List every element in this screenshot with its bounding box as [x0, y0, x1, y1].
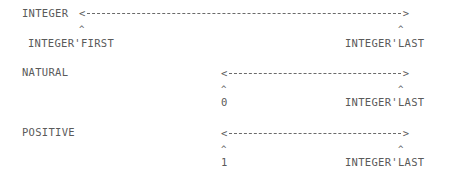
type-name: INTEGER: [22, 7, 68, 19]
upper-bound: INTEGER'LAST: [345, 156, 424, 168]
arrow-left-icon: <: [221, 67, 227, 79]
arrow-right-icon: >: [403, 127, 409, 139]
lower-bound: 1: [221, 156, 228, 168]
type-name: NATURAL: [22, 66, 68, 78]
upper-bound: INTEGER'LAST: [345, 37, 424, 49]
arrow-right-icon: >: [403, 7, 409, 19]
caret-icon: ^: [221, 144, 226, 154]
range-arrow: < >: [221, 67, 409, 79]
caret-icon: ^: [79, 24, 84, 34]
caret-icon: ^: [398, 24, 403, 34]
caret-icon: ^: [398, 84, 403, 94]
range-arrow: < >: [79, 7, 409, 19]
arrow-left-icon: <: [221, 127, 227, 139]
lower-bound: INTEGER'FIRST: [28, 37, 114, 49]
caret-icon: ^: [398, 144, 403, 154]
lower-bound: 0: [221, 96, 228, 108]
caret-icon: ^: [221, 84, 226, 94]
dashed-line: [87, 13, 401, 14]
type-name: POSITIVE: [22, 126, 75, 138]
dashed-line: [229, 133, 401, 134]
dashed-line: [229, 73, 401, 74]
upper-bound: INTEGER'LAST: [345, 96, 424, 108]
arrow-right-icon: >: [403, 67, 409, 79]
range-arrow: < >: [221, 127, 409, 139]
arrow-left-icon: <: [79, 7, 85, 19]
